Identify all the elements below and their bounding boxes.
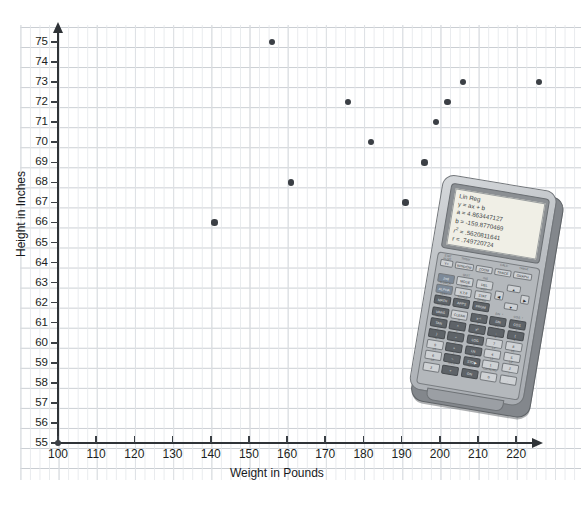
- soft-key-trace[interactable]: TRACE: [494, 268, 512, 278]
- y-tick-label-text: 59: [14, 357, 48, 368]
- arrow-up-key[interactable]: ▲: [506, 284, 521, 293]
- data-point: [444, 99, 450, 105]
- y-tick-label: 71: [8, 116, 48, 127]
- x-tick: [210, 436, 212, 443]
- y-tick-label-text: 73: [14, 76, 48, 87]
- x-tick: [248, 436, 250, 443]
- y-tick: [51, 242, 58, 244]
- scatter-plot-page: 5556575859606162636465666768697071727374…: [0, 0, 581, 505]
- data-point: [368, 139, 374, 145]
- y-tick: [51, 342, 58, 344]
- key-apps[interactable]: APPS: [452, 298, 470, 310]
- y-tick: [51, 61, 58, 63]
- soft-key-y-[interactable]: Y=: [440, 259, 454, 268]
- y-tick: [51, 101, 58, 103]
- x-tick: [363, 436, 365, 443]
- y-tick-label-text: 58: [14, 377, 48, 388]
- arrow-right-key[interactable]: ▶: [520, 295, 530, 305]
- y-tick: [51, 322, 58, 324]
- y-tick: [51, 302, 58, 304]
- y-tick-label-text: 56: [14, 417, 48, 428]
- data-point: [536, 79, 542, 85]
- x-axis-title: Weight in Pounds: [230, 466, 324, 480]
- x-tick: [477, 436, 479, 443]
- y-tick: [51, 402, 58, 404]
- x-tick: [401, 436, 403, 443]
- y-tick-label-text: 57: [14, 397, 48, 408]
- soft-key-zoom[interactable]: ZOOM: [475, 265, 493, 275]
- y-tick-label-text: 63: [14, 277, 48, 288]
- data-point: [288, 179, 294, 185]
- y-tick: [51, 362, 58, 364]
- calculator-screen-bezel: Lin Reg y = ax + b a = 4.863447127 b = -…: [441, 183, 551, 265]
- y-tick-label: 62: [8, 297, 48, 308]
- y-tick-label-text: 61: [14, 317, 48, 328]
- y-tick-label: 61: [8, 317, 48, 328]
- data-point: [421, 159, 427, 165]
- key-prgm[interactable]: PRGM: [472, 301, 490, 313]
- y-tick-label-text: 70: [14, 136, 48, 147]
- y-tick: [51, 81, 58, 83]
- data-point: [433, 119, 439, 125]
- soft-key-window[interactable]: WINDOW: [454, 261, 474, 271]
- y-tick-label: 75: [8, 36, 48, 47]
- y-tick-label: 63: [8, 277, 48, 288]
- soft-key-graph[interactable]: GRAPH: [513, 271, 533, 281]
- x-tick: [439, 436, 441, 443]
- x-tick: [172, 436, 174, 443]
- data-point: [402, 199, 408, 205]
- y-tick-label: 70: [8, 136, 48, 147]
- y-tick: [51, 162, 58, 164]
- calculator-screen: Lin Reg y = ax + b a = 4.863447127 b = -…: [446, 188, 545, 259]
- y-tick: [51, 222, 58, 224]
- x-tick: [286, 436, 288, 443]
- data-point: [269, 39, 275, 45]
- x-tick: [324, 436, 326, 443]
- y-tick-label-text: 62: [14, 297, 48, 308]
- x-tick-label: 220: [494, 447, 538, 461]
- x-tick: [515, 436, 517, 443]
- key-3[interactable]: 3: [422, 361, 440, 373]
- y-tick: [51, 41, 58, 43]
- arrow-down-key[interactable]: ▼: [503, 302, 518, 311]
- arrow-left-key[interactable]: ◀: [494, 290, 504, 300]
- data-point: [345, 99, 351, 105]
- y-tick: [51, 422, 58, 424]
- y-tick: [51, 262, 58, 264]
- data-point: [211, 219, 217, 225]
- y-tick-label: 60: [8, 337, 48, 348]
- y-tick-label-text: 75: [14, 36, 48, 47]
- x-tick: [134, 436, 136, 443]
- y-axis-title: Height in Inches: [14, 154, 28, 274]
- y-tick-label-text: 74: [14, 56, 48, 67]
- x-axis-line: [57, 442, 535, 444]
- y-tick-label: 56: [8, 417, 48, 428]
- y-tick: [51, 202, 58, 204]
- y-tick-label: 74: [8, 56, 48, 67]
- data-point: [460, 79, 466, 85]
- data-point: [55, 440, 61, 446]
- y-tick-label: 57: [8, 397, 48, 408]
- y-tick-label-text: 71: [14, 116, 48, 127]
- y-tick-label-text: 72: [14, 96, 48, 107]
- y-axis-arrow-icon: [53, 22, 63, 33]
- y-tick: [51, 182, 58, 184]
- y-tick-label: 59: [8, 357, 48, 368]
- x-tick: [95, 436, 97, 443]
- y-tick-label-text: 60: [14, 337, 48, 348]
- y-tick-label: 73: [8, 76, 48, 87]
- y-tick-label: 58: [8, 377, 48, 388]
- r-squared-exponent: 2: [456, 226, 459, 231]
- calculator-keypad: STAT PLOTY=TblSetWINDOWZOOMCALCTRACETABL…: [416, 251, 541, 400]
- y-tick: [51, 382, 58, 384]
- y-tick-label: 72: [8, 96, 48, 107]
- y-tick: [51, 282, 58, 284]
- y-tick: [51, 121, 58, 123]
- y-tick: [51, 141, 58, 143]
